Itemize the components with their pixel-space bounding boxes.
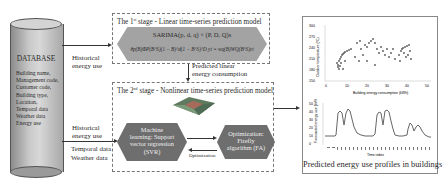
label-line: Machine: [117, 126, 187, 133]
stage1-box: The 1st stage - Linear time-series predi…: [112, 13, 270, 64]
y-tick: 20: [309, 126, 313, 130]
database-field: Weather data: [16, 113, 59, 120]
label-line: vector regression: [117, 140, 187, 147]
database-field: Energy use: [16, 120, 59, 127]
y-tick: 150: [309, 79, 315, 83]
x-tick: 0: [325, 84, 327, 88]
label-line: energy use: [72, 132, 102, 140]
database-top: [10, 18, 62, 30]
y-tick: 30: [309, 118, 313, 122]
output-caption: Predicted energy use profiles in buildin…: [303, 160, 437, 169]
y-tick: 50: [309, 102, 313, 106]
connector-fa-svr: [191, 150, 217, 151]
y-tick: 10: [309, 134, 313, 138]
fa-label: Optimization: Firefly algorithm (FA): [217, 130, 275, 152]
stage1-title-post: stage - Linear time-series prediction mo…: [136, 18, 261, 26]
arrow-left-icon: [188, 148, 192, 152]
y-tick: 40: [309, 110, 313, 114]
database-field: Temporal data: [16, 106, 59, 113]
temporal-weather-label: Temporal data Weather data: [71, 145, 111, 163]
scatter-plot: 300 270 240 210 180 150 0 10 20 30 40 50…: [305, 19, 437, 99]
database-field: Building name,: [16, 70, 59, 77]
database-cylinder: DATABASE Building name, Management code,…: [10, 18, 62, 178]
x-tick: 50: [425, 84, 429, 88]
historical-energy-label-top: Historical energy use: [72, 54, 102, 70]
database-fields: Building name, Management code, Customer…: [16, 70, 59, 128]
database-bottom: [10, 166, 62, 178]
label-line: Historical: [72, 54, 102, 62]
line-xlabel: Time index: [367, 153, 384, 157]
label-line: Temporal data: [71, 145, 111, 154]
label-line: Firefly: [217, 137, 275, 144]
output-panel: 300 270 240 210 180 150 0 10 20 30 40 50…: [302, 16, 438, 174]
line-plot: 50 40 30 20 10 0 Time index Forecasted e…: [305, 99, 437, 159]
database-field: Location,: [16, 99, 59, 106]
stage2-box: The 2nd stage - Nonlinear time-series pr…: [112, 82, 274, 172]
arrow-right-icon: [213, 136, 217, 140]
svr-label: Machine learning: Support vector regress…: [117, 126, 187, 155]
database-title: DATABASE: [10, 54, 62, 63]
y-tick: 210: [309, 57, 315, 61]
connector-svr-fa: [187, 138, 215, 139]
historical-energy-label-bottom: Historical energy use: [72, 124, 102, 140]
x-tick: 30: [385, 84, 389, 88]
database-field: Building type,: [16, 92, 59, 99]
label-line: (SVR): [117, 148, 187, 155]
database-field: Customer code,: [16, 84, 59, 91]
optimization-label: Optimization: [189, 153, 215, 158]
arrow-right-icon: [296, 106, 300, 110]
x-tick: 40: [405, 84, 409, 88]
y-tick: 270: [309, 35, 315, 39]
predicted-linear-label: Predicted linear energy consumption: [192, 62, 247, 78]
connector-db-stage2: [62, 141, 116, 142]
label-line: Weather data: [71, 154, 111, 163]
label-line: learning: Support: [117, 133, 187, 140]
y-tick: 180: [309, 68, 315, 72]
label-line: Predicted linear: [192, 62, 247, 70]
stage1-title: The 1st stage - Linear time-series predi…: [117, 16, 262, 26]
stage2-title-pre: The 2: [117, 87, 134, 95]
label-line: algorithm (FA): [217, 144, 275, 151]
surface-plot-icon: [171, 95, 217, 121]
scatter-xlabel: Building energy consumption (kWh): [353, 91, 408, 95]
label-line: Historical: [72, 124, 102, 132]
y-tick: 0: [309, 142, 311, 146]
line-ylabel: Forecasted energy use (kWh): [314, 99, 318, 143]
label-line: energy use: [72, 62, 102, 70]
x-tick: 20: [365, 84, 369, 88]
database-field: Management code,: [16, 77, 59, 84]
label-line: Optimization:: [217, 130, 275, 137]
sarima-equation: θp(B)ΦP(B^S)(1 − B)^d(1 − B^S)^D yt = wq…: [117, 45, 267, 53]
connector-db-stage1: [62, 45, 110, 46]
y-tick: 300: [309, 24, 315, 28]
scatter-ylabel: Outdoor temperature (°C): [316, 37, 320, 77]
y-tick: 240: [309, 46, 315, 50]
stage1-title-pre: The 1: [117, 18, 134, 26]
sarima-formula: SARIMA(p, d, q) × (P, D, Q)s: [117, 31, 267, 39]
connector-stage2-output: [274, 108, 298, 109]
x-tick: 10: [345, 84, 349, 88]
label-line: energy consumption: [192, 70, 247, 78]
stage2-title: The 2nd stage - Nonlinear time-series pr…: [117, 85, 273, 95]
